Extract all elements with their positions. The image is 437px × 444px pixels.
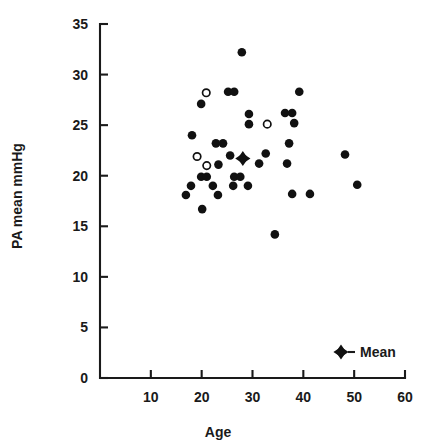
data-point-filled: [229, 182, 238, 191]
data-point-filled: [198, 205, 207, 214]
data-point-filled: [209, 182, 218, 191]
data-point-filled: [197, 100, 206, 109]
x-axis-title: Age: [205, 424, 232, 440]
data-point-open: [203, 162, 210, 169]
x-tick-label-20: 20: [194, 389, 210, 405]
y-tick-label-5: 5: [80, 319, 88, 335]
x-tick-label-60: 60: [397, 389, 413, 405]
y-tick-label-0: 0: [80, 370, 88, 386]
data-point-filled: [188, 131, 197, 140]
y-axis-title: PA mean mmHg: [9, 143, 25, 249]
data-point-filled: [182, 191, 191, 200]
data-point-filled: [214, 191, 223, 200]
data-point-filled: [295, 87, 304, 96]
data-point-filled: [255, 159, 264, 168]
data-point-filled: [202, 172, 211, 181]
data-point-filled: [290, 119, 299, 128]
scatter-plot-figure: 05101520253035 102030405060 Mean Age PA …: [0, 0, 437, 444]
data-point-filled: [283, 159, 292, 168]
data-points: [182, 48, 362, 239]
data-point-filled: [238, 48, 247, 57]
data-point-filled: [226, 151, 235, 160]
x-tick-label-10: 10: [143, 389, 159, 405]
data-point-filled: [306, 190, 315, 199]
data-point-filled: [285, 139, 294, 148]
data-point-filled: [288, 190, 297, 199]
data-point-filled: [214, 160, 223, 169]
data-point-filled: [341, 150, 350, 159]
data-point-filled: [245, 110, 254, 119]
y-tick-label-20: 20: [72, 168, 88, 184]
data-point-filled: [353, 181, 362, 190]
data-point-open: [264, 120, 271, 127]
y-tick-label-25: 25: [72, 117, 88, 133]
x-tick-label-50: 50: [346, 389, 362, 405]
data-point-filled: [261, 149, 270, 158]
data-point-filled: [288, 109, 297, 118]
y-tick-label-15: 15: [72, 218, 88, 234]
y-tick-label-10: 10: [72, 269, 88, 285]
y-tick-label-35: 35: [72, 16, 88, 32]
data-point-filled: [271, 230, 280, 239]
data-point-filled: [236, 172, 245, 181]
data-point-filled: [230, 87, 239, 96]
x-tick-label-30: 30: [245, 389, 261, 405]
data-point-mean: [235, 151, 250, 166]
legend-mean-marker: [333, 344, 348, 359]
mean-marker-core: [337, 348, 346, 357]
x-axis-tick-labels: 102030405060: [143, 389, 413, 405]
axis-spines: [100, 24, 405, 378]
chart-legend: Mean: [333, 344, 395, 360]
axes: [100, 24, 405, 378]
data-point-filled: [244, 182, 253, 191]
x-tick-label-40: 40: [296, 389, 312, 405]
data-point-filled: [245, 120, 254, 129]
mean-marker-core: [239, 154, 248, 163]
plot-canvas: 05101520253035 102030405060 Mean Age PA …: [0, 0, 437, 444]
data-point-filled: [219, 139, 228, 148]
data-point-open: [193, 153, 200, 160]
legend-label-mean: Mean: [360, 344, 396, 360]
data-point-filled: [187, 182, 196, 191]
axis-ticks: [100, 24, 405, 378]
y-tick-label-30: 30: [72, 67, 88, 83]
y-axis-tick-labels: 05101520253035: [72, 16, 88, 386]
data-point-open: [203, 89, 210, 96]
